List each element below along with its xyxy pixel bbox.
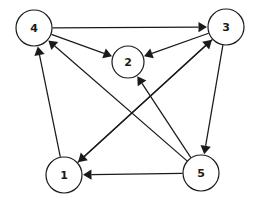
edge-arrowhead-icon (198, 22, 207, 32)
edge-line (206, 45, 223, 146)
edge-line (92, 173, 183, 174)
edge-arrowhead-icon (137, 76, 146, 86)
graph-edge (78, 40, 212, 163)
node-label: 5 (197, 167, 205, 180)
node-label: 1 (60, 169, 68, 182)
graph-node-5[interactable]: 5 (183, 155, 219, 191)
nodes-layer: 43215 (16, 9, 244, 193)
graph-edge (201, 45, 223, 154)
graph-node-4[interactable]: 4 (16, 10, 52, 46)
edge-arrowhead-icon (83, 169, 92, 179)
graph-edge (53, 22, 208, 32)
graph-node-1[interactable]: 1 (46, 157, 82, 193)
node-label: 3 (222, 21, 230, 34)
graph-edge (83, 169, 183, 179)
graph-node-3[interactable]: 3 (208, 9, 244, 45)
graph-edge (144, 33, 209, 58)
edge-arrowhead-icon (48, 40, 58, 50)
edge-line (53, 27, 199, 28)
node-label: 2 (124, 56, 132, 69)
node-label: 4 (30, 22, 38, 35)
graph-edge (51, 34, 112, 58)
graph-edge (34, 47, 60, 157)
graph-canvas: 43215 (0, 0, 260, 205)
edge-arrowhead-icon (34, 47, 44, 56)
edge-line (40, 55, 61, 157)
edge-line (142, 83, 191, 157)
edge-arrowhead-icon (201, 145, 211, 154)
graph-edge (137, 76, 190, 157)
graph-node-2[interactable]: 2 (112, 46, 144, 78)
directed-graph-figure: 43215 (0, 0, 260, 205)
